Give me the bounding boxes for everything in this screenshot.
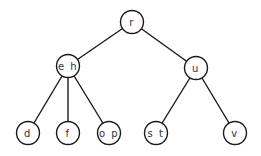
tree-diagram: re hudfo ps tv — [0, 0, 261, 156]
node-label: u — [192, 63, 200, 74]
node-label: r — [129, 17, 135, 28]
tree-node-op: o p — [98, 122, 121, 145]
tree-node-v: v — [224, 122, 247, 145]
tree-node-st: s t — [145, 122, 168, 145]
node-label: o p — [99, 128, 119, 139]
tree-node-r: r — [121, 11, 144, 34]
tree-node-u: u — [185, 57, 208, 80]
node-label: d — [24, 128, 32, 139]
node-label: v — [231, 128, 238, 139]
node-label: e h — [58, 61, 78, 72]
tree-node-f: f — [57, 122, 80, 145]
tree-node-eh: e h — [57, 55, 80, 78]
node-label: s t — [148, 128, 165, 139]
node-label: f — [65, 128, 70, 139]
tree-node-d: d — [17, 122, 40, 145]
